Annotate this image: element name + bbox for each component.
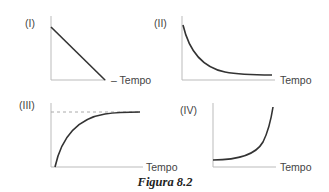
- panel-iii-curve: [55, 112, 140, 167]
- panel-iv: (IV) Tempo: [180, 103, 312, 173]
- panel-iii: (III) Tempo: [19, 99, 178, 173]
- panel-iii-x-label: Tempo: [146, 161, 178, 173]
- panel-i: (I) – Tempo: [25, 16, 151, 86]
- panel-iv-curve: [213, 107, 273, 160]
- panel-i-x-label: – Tempo: [111, 74, 151, 86]
- panel-iv-label: (IV): [180, 104, 197, 116]
- panel-iii-label: (III): [19, 99, 35, 111]
- panel-ii: (II) Tempo: [154, 16, 312, 86]
- panel-ii-curve: [183, 25, 272, 75]
- panel-iv-x-label: Tempo: [280, 161, 312, 173]
- panel-i-curve: [51, 27, 105, 80]
- panel-i-label: (I): [25, 17, 35, 29]
- panel-ii-x-label: Tempo: [280, 74, 312, 86]
- figure-caption: Figura 8.2: [137, 175, 193, 189]
- figure-canvas: (I) – Tempo (II) Tempo (III) Tempo (IV) …: [0, 0, 329, 192]
- panel-ii-label: (II): [154, 17, 167, 29]
